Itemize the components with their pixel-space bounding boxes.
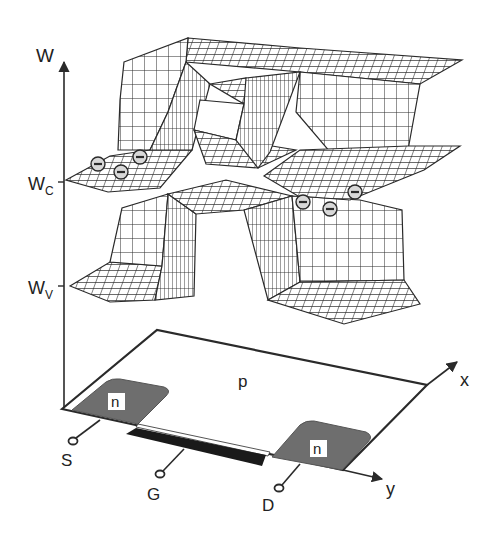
electron-icon — [91, 157, 105, 171]
drain-region-label: n — [313, 440, 321, 457]
band-diagram: W WC WV — [0, 0, 491, 536]
drain-terminal-label: D — [262, 496, 274, 515]
energy-axis: W WC WV — [28, 45, 64, 410]
electron-icon — [323, 202, 337, 216]
x-axis — [427, 362, 457, 385]
valence-band-surface — [70, 180, 420, 324]
gate-terminal: G — [147, 449, 184, 504]
electron-icon — [114, 165, 128, 179]
y-axis-label: y — [386, 479, 395, 499]
electron-icon — [348, 185, 362, 199]
drain-terminal: D — [262, 464, 300, 515]
substrate-label: p — [238, 372, 247, 391]
y-axis — [343, 470, 382, 479]
gate-terminal-label: G — [147, 485, 160, 504]
source-terminal-label: S — [61, 451, 72, 470]
electron-icon — [296, 195, 310, 209]
valence-band-label: WV — [28, 278, 53, 302]
x-axis-label: x — [460, 370, 469, 390]
source-terminal: S — [61, 420, 100, 470]
electron-icon — [133, 150, 147, 164]
energy-axis-label: W — [36, 45, 54, 66]
conduction-band-label: WC — [28, 174, 54, 198]
source-region-label: n — [111, 393, 119, 410]
